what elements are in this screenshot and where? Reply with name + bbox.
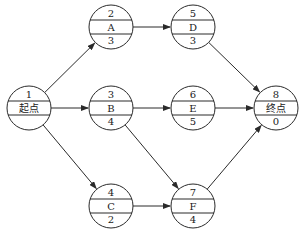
node-name: 终点 [266, 102, 286, 114]
node-name: C [107, 201, 115, 212]
edges-layer [43, 27, 261, 206]
node-number: 5 [190, 8, 196, 19]
node-name: F [190, 201, 197, 212]
nodes-layer: 1起点2A33B44C25D36E57F48终点0 [7, 5, 298, 228]
node-n1: 1起点 [7, 86, 51, 130]
node-duration: 5 [190, 116, 196, 127]
node-name: A [106, 22, 115, 33]
node-nC: 4C2 [89, 184, 133, 228]
node-duration: 2 [108, 214, 114, 225]
edge-arrow [43, 125, 96, 188]
node-nE: 6E5 [171, 86, 215, 130]
node-nD: 5D3 [171, 5, 215, 49]
network-diagram: 1起点2A33B44C25D36E57F48终点0 [0, 0, 305, 237]
node-nF: 7F4 [171, 184, 215, 228]
node-name: E [189, 103, 196, 114]
node-number: 7 [190, 187, 196, 198]
diagram-svg: 1起点2A33B44C25D36E57F48终点0 [0, 0, 305, 237]
node-name: 起点 [19, 103, 39, 114]
node-duration: 4 [190, 214, 196, 225]
node-nA: 2A3 [89, 5, 133, 49]
node-duration: 3 [190, 35, 196, 46]
node-number: 2 [108, 8, 114, 19]
node-number: 3 [108, 89, 114, 100]
node-number: 8 [273, 89, 279, 100]
node-number: 6 [190, 89, 196, 100]
node-name: B [107, 103, 114, 114]
edge-arrow [209, 42, 260, 92]
node-duration: 4 [108, 116, 114, 127]
edge-arrow [207, 126, 261, 190]
node-nB: 3B4 [89, 86, 133, 130]
edge-arrow [125, 125, 178, 188]
node-n8: 8终点0 [254, 86, 298, 130]
node-duration: 0 [273, 116, 279, 127]
edge-arrow [45, 43, 95, 92]
node-number: 1 [26, 89, 32, 100]
node-number: 4 [108, 187, 114, 198]
node-duration: 3 [108, 35, 114, 46]
node-name: D [189, 22, 197, 33]
